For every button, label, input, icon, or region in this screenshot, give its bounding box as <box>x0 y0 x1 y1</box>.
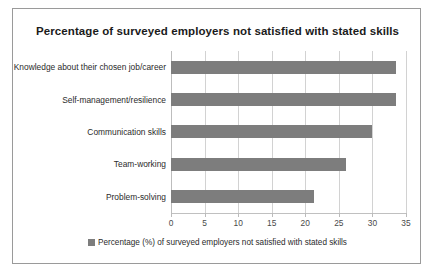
category-label: Problem-solving <box>106 190 166 204</box>
x-tick-mark-5 <box>205 213 206 217</box>
category-label: Team-working <box>114 157 166 171</box>
bar-row: Communication skills <box>171 116 406 148</box>
x-tick-label: 10 <box>233 218 242 228</box>
legend-color-swatch <box>88 239 95 246</box>
chart-title: Percentage of surveyed employers not sat… <box>13 25 422 37</box>
category-label: Self-management/resilience <box>62 93 166 107</box>
chart-legend: Percentage (%) of surveyed employers not… <box>13 238 422 247</box>
x-tick-mark-30 <box>372 213 373 217</box>
gridline-35 <box>406 51 407 213</box>
category-label: Communication skills <box>87 125 166 139</box>
plot-area: Knowledge about their chosen job/careerS… <box>171 51 406 213</box>
x-tick-label: 0 <box>169 218 174 228</box>
bar-row: Self-management/resilience <box>171 83 406 115</box>
x-tick-mark-20 <box>305 213 306 217</box>
x-tick-mark-10 <box>238 213 239 217</box>
bar <box>171 190 314 203</box>
bar <box>171 158 346 171</box>
bar-row: Team-working <box>171 148 406 180</box>
x-tick-label: 30 <box>368 218 377 228</box>
x-tick-label: 5 <box>202 218 207 228</box>
x-tick-mark-0 <box>171 213 172 217</box>
x-tick-mark-25 <box>339 213 340 217</box>
x-tick-label: 35 <box>401 218 410 228</box>
category-label: Knowledge about their chosen job/career <box>14 60 166 74</box>
bar <box>171 93 396 106</box>
bar-row: Problem-solving <box>171 181 406 213</box>
x-tick-label: 25 <box>334 218 343 228</box>
x-tick-label: 20 <box>301 218 310 228</box>
bar-row: Knowledge about their chosen job/career <box>171 51 406 83</box>
x-tick-label: 15 <box>267 218 276 228</box>
x-tick-mark-35 <box>406 213 407 217</box>
bar <box>171 125 372 138</box>
x-tick-mark-15 <box>272 213 273 217</box>
chart-container: Percentage of surveyed employers not sat… <box>12 8 421 264</box>
bar <box>171 61 396 74</box>
legend-label: Percentage (%) of surveyed employers not… <box>98 238 347 247</box>
